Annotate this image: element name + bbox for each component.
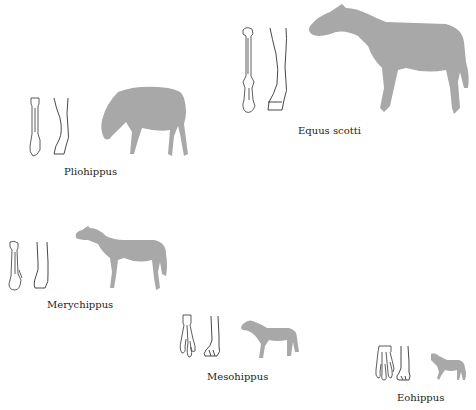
species-label: Equus scotti	[298, 125, 361, 136]
hoof-outline-icon	[266, 28, 294, 116]
foot-bone-icon	[177, 313, 199, 361]
foot-bone-icon	[6, 240, 24, 292]
hoof-outline-icon	[395, 346, 415, 382]
small-horse-icon	[239, 318, 301, 360]
species-label: Pliohippus	[64, 166, 117, 177]
hoof-outline-icon	[52, 98, 74, 158]
species-label: Merychippus	[47, 299, 113, 310]
species-label: Eohippus	[397, 392, 444, 403]
foot-bone-icon	[28, 96, 42, 158]
horse-silhouette-icon	[306, 2, 470, 116]
horse-silhouette-icon	[74, 222, 170, 292]
foot-bone-icon	[373, 344, 397, 384]
foot-bone-icon	[238, 26, 260, 116]
hoof-outline-icon	[33, 242, 53, 292]
species-label: Mesohippus	[207, 371, 268, 382]
hoof-outline-icon	[203, 316, 225, 360]
grazing-horse-icon	[98, 84, 192, 158]
dawn-horse-icon	[429, 352, 469, 382]
